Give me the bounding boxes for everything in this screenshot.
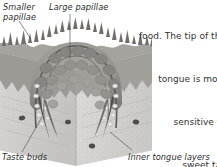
label-smaller-papillae: Smaller papillae	[3, 2, 36, 22]
label-taste-buds: Taste buds	[2, 152, 47, 162]
label-large-papillae: Large papillae	[49, 2, 108, 12]
body-text-line: tongue is most	[104, 72, 217, 86]
figure-tongue-anatomy: Smaller papillae Large papillae Taste bu…	[0, 0, 217, 167]
leader-smaller-papillae	[19, 21, 31, 39]
body-text-line: sweet tas	[104, 158, 217, 167]
body-text-block: food. The tip of the tongue is most sens…	[104, 0, 217, 167]
body-text-line: food. The tip of the	[104, 29, 217, 43]
body-text-line: sensitive to	[104, 115, 217, 129]
